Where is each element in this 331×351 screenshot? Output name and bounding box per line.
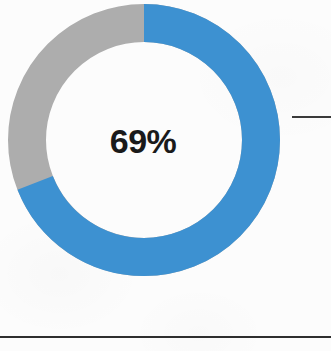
- leader-line: [292, 116, 331, 118]
- chart-page: 69%: [0, 0, 331, 351]
- donut-chart-svg: [8, 4, 280, 276]
- donut-slices: [27, 23, 261, 257]
- donut-chart: [8, 4, 280, 276]
- bottom-rule: [0, 336, 331, 338]
